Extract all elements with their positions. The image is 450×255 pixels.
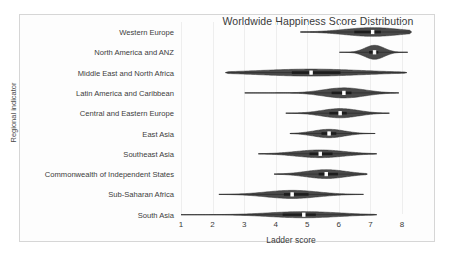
violin-quartile-box [329, 112, 346, 115]
violin-quartile-box [284, 193, 309, 196]
violin [245, 88, 399, 98]
violin [219, 190, 364, 198]
plot-area: Western EuropeNorth America and ANZMiddl… [0, 0, 450, 255]
violin-quartile-box [283, 214, 316, 216]
violin [300, 28, 411, 37]
violin [226, 69, 407, 76]
violin-median-marker [371, 30, 373, 33]
violin-median-marker [325, 173, 327, 176]
violin-median-marker [343, 91, 345, 94]
violin [286, 109, 390, 118]
violin-median-marker [339, 112, 341, 115]
violin-median-marker [373, 51, 375, 54]
violin-median-marker [303, 213, 305, 216]
violin-quartile-box [319, 173, 338, 176]
violin-series [0, 0, 450, 255]
violin-quartile-box [354, 31, 381, 34]
violin [274, 170, 367, 179]
violin [258, 150, 376, 158]
violin-quartile-box [332, 92, 352, 95]
chart-figure: Worldwide Happiness Score Distribution R… [0, 0, 450, 255]
violin [290, 129, 375, 137]
violin [181, 212, 377, 218]
violin-quartile-box [292, 71, 341, 74]
violin-median-marker [319, 152, 321, 155]
violin-median-marker [310, 71, 312, 74]
violin-median-marker [291, 193, 293, 196]
violin-median-marker [328, 132, 330, 135]
violin [339, 45, 407, 59]
